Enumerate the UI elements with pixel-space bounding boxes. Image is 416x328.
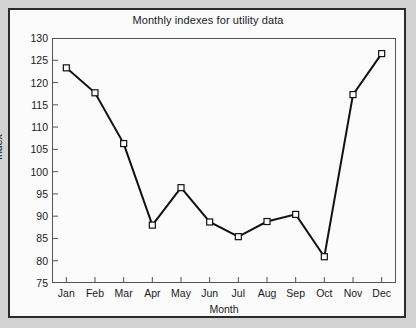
y-tick-label: 85 [2, 232, 48, 244]
data-point-marker [92, 90, 98, 96]
y-tick-label: 105 [2, 143, 48, 155]
plot-area [52, 38, 396, 283]
data-point-marker [264, 219, 270, 225]
data-point-marker [149, 222, 155, 228]
y-tick-label: 110 [2, 121, 48, 133]
y-tick-label: 120 [2, 77, 48, 89]
plot-frame [53, 39, 396, 283]
data-point-marker [178, 185, 184, 191]
y-tick-label: 75 [2, 277, 48, 289]
data-point-marker [379, 51, 385, 57]
x-tick-label: Dec [362, 287, 402, 299]
y-tick-label: 95 [2, 188, 48, 200]
data-point-marker [235, 234, 241, 240]
y-tick-label: 115 [2, 99, 48, 111]
y-tick-label: 125 [2, 54, 48, 66]
data-point-marker [293, 211, 299, 217]
chart-figure: Monthly indexes for utility data Index 7… [0, 0, 416, 328]
data-point-marker [350, 92, 356, 98]
data-point-marker [63, 65, 69, 71]
y-tick-label: 90 [2, 210, 48, 222]
data-point-marker [321, 254, 327, 260]
line-chart-svg [52, 38, 396, 283]
data-point-marker [121, 141, 127, 147]
data-point-marker [207, 219, 213, 225]
x-axis-title: Month [52, 303, 396, 315]
chart-title: Monthly indexes for utility data [0, 14, 416, 26]
y-tick-label: 100 [2, 166, 48, 178]
y-tick-label: 80 [2, 255, 48, 267]
y-tick-label: 130 [2, 32, 48, 44]
